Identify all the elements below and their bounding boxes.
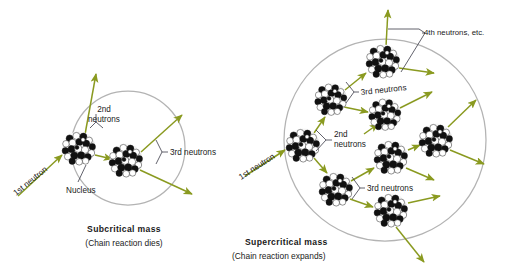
nucleus: [286, 129, 319, 163]
label-3rd-neutrons-super-upper: 3rd neutrons: [360, 83, 407, 97]
arrow-4th-neutron-super-up: [386, 10, 388, 46]
caption-supercritical-title: Supercritical mass: [245, 237, 328, 247]
arrow-4th-neutron-from-s5: [400, 92, 432, 108]
arrow-2nd-neutron-super-down: [314, 158, 327, 173]
arrow-3rd-neutron-super-b: [344, 107, 368, 112]
nucleus: [366, 45, 399, 79]
arrow-3rd-neutron-super-d: [350, 199, 373, 207]
label-nucleus: Nucleus: [66, 186, 96, 195]
label-3rd-neutrons-sub: 3rd neutrons: [170, 148, 216, 157]
label-2nd-neutrons-super-line2: neutrons: [334, 140, 366, 149]
arrow-4th-neutron-super-right: [399, 68, 434, 73]
arrow-4th-neutron-s6-down: [406, 168, 434, 180]
arrow-2nd-neutron-super-up: [314, 117, 325, 133]
arrow-2nd-neutron-sub-up: [84, 74, 96, 140]
arrow-4th-neutron-s7-right: [408, 196, 440, 203]
arrow-3rd-neutron-sub-a: [141, 115, 182, 152]
label-1st-neutron-sub: 1st neutron: [12, 164, 50, 197]
nucleus: [419, 124, 452, 158]
label-3rd-neutrons-super-lower: 3rd neutrons: [367, 184, 413, 193]
arrow-4th-neutron-s6-to-s8: [408, 145, 420, 150]
leader-nucleus: [78, 165, 86, 182]
nucleus: [62, 132, 95, 166]
label-2nd-neutrons-sub-line1: 2nd: [97, 105, 111, 114]
nucleus: [374, 194, 407, 228]
nucleus: [109, 144, 142, 178]
nucleus: [319, 173, 352, 207]
nucleus: [374, 141, 407, 175]
supercritical-panel: 2nd neutrons 3rd neutrons 3rd neutrons 4…: [232, 10, 486, 262]
label-4th-neutrons: 4th neutrons, etc.: [424, 28, 484, 37]
arrow-4th-neutron-s7-down: [396, 227, 424, 262]
caption-subcritical-title: Subcritical mass: [87, 224, 161, 234]
caption-subcritical-sub: (Chain reaction dies): [85, 238, 162, 248]
subcritical-panel: 2nd neutrons 3rd neutrons Nucleus 1st ne…: [12, 74, 216, 248]
leader-3rd-neutrons-sub: [156, 140, 162, 164]
label-2nd-neutrons-super-line1: 2nd: [334, 130, 348, 139]
arrow-3rd-neutron-super-c: [351, 168, 374, 181]
fission-svg: 2nd neutrons 3rd neutrons Nucleus 1st ne…: [0, 0, 509, 270]
label-2nd-neutrons-sub-line2: neutrons: [88, 115, 120, 124]
arrow-4th-neutron-s8-up: [448, 100, 476, 127]
caption-supercritical-sub: (Chain reaction expands): [232, 251, 326, 261]
arrow-2nd-neutron-sub-right: [95, 155, 112, 159]
fission-diagram: 2nd neutrons 3rd neutrons Nucleus 1st ne…: [0, 0, 509, 270]
arrow-4th-neutron-s8-down: [450, 150, 484, 164]
nucleus: [369, 98, 401, 130]
label-1st-neutron-super: 1st neutron: [237, 152, 277, 182]
nucleus: [315, 83, 347, 115]
